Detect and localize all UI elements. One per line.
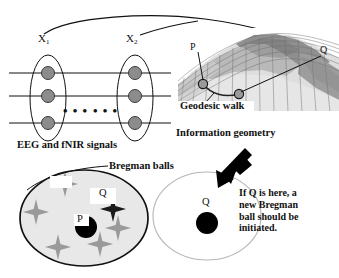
node-x2-c1 [129, 67, 142, 80]
signal-nodes [42, 67, 142, 130]
node-x1-c3 [42, 117, 55, 130]
node-x2-c2 [129, 90, 142, 103]
left-ball-label-q: Q [99, 187, 107, 199]
node-x1-c1 [42, 67, 55, 80]
right-ball-center-point-q [196, 212, 218, 234]
information-geometry-caption: Information geometry [176, 127, 275, 139]
ellipsis-right: • • • [93, 104, 118, 119]
left-ball-label-p: P [77, 213, 83, 225]
label-x2: X2 [126, 32, 137, 47]
manifold-label-q: Q [320, 44, 327, 55]
label-x1: X1 [38, 32, 49, 47]
ellipsis-left: • • • [63, 104, 88, 119]
manifold-label-p: P [190, 41, 196, 52]
manifold-point-q [234, 89, 243, 98]
node-x2-c3 [129, 117, 142, 130]
signals-caption: EEG and fNIR signals [17, 139, 117, 151]
bregman-balls-title: Bregman balls [109, 160, 174, 172]
node-x1-c2 [42, 90, 55, 103]
star-knockout-1 [50, 176, 72, 188]
geodesic-caption: Geodesic walk [180, 100, 244, 112]
bregman-note: If Q is here, a new Bregman ball should … [239, 187, 311, 234]
figure-root: X1 X2 • • • • • • EEG and fNIR signals P… [0, 0, 339, 278]
right-ball-label-q: Q [202, 196, 210, 208]
manifold-point-p [198, 79, 207, 88]
signal-channel-lines [9, 73, 171, 123]
signals-panel [9, 55, 171, 141]
